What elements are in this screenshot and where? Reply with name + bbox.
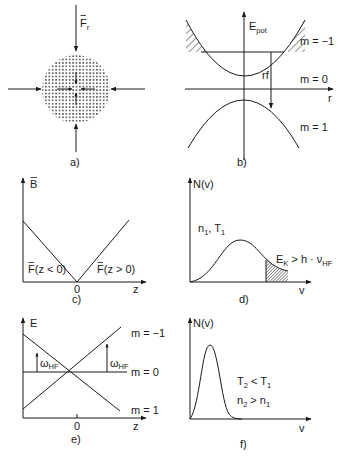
caption-d: d) [239,293,249,305]
force-right-label: F(z > 0) [97,263,135,275]
params-label: n1, T1 [198,222,225,237]
cold-distribution-curve [190,345,242,419]
level-m-minus-1: m = −1 [300,35,334,47]
panel-e: E ωHF ωHF m = −1 m = 0 m = 1 0 z e) [23,317,165,445]
y-axis-label: N(v) [193,178,214,190]
level-m-0: m = 0 [300,73,328,85]
origin-tick-label: 0 [74,420,80,432]
caption-b: b) [237,156,247,168]
x-axis-label: r [328,92,332,104]
panel-f: N(v) v T2 < T1 n2 > n1 f) [190,317,311,450]
transition-label-left: ωHF [40,357,59,371]
figure-canvas: Fr a) Epot r rf m = −1 m = 0 m = 1 b) B … [0,0,342,460]
force-left-label: F(z < 0) [28,263,66,275]
level-line-m-minus-1 [23,327,121,409]
x-axis-label: z [133,283,139,295]
level-m-1: m = 1 [131,404,159,416]
caption-e: e) [71,433,81,445]
panel-b: Epot r rf m = −1 m = 0 m = 1 b) [185,12,334,168]
level-m-0: m = 0 [131,366,159,378]
level-m-1: m = 1 [300,121,328,133]
rf-label: rf [262,69,270,81]
atom-cloud [42,55,110,123]
y-axis-label: B [30,178,37,190]
x-axis-label: v [299,422,305,434]
panel-a: Fr a) [8,5,145,168]
force-label: Fr [80,17,90,32]
y-axis-label: N(v) [193,317,214,329]
caption-a: a) [70,156,80,168]
panel-d: N(v) v n1, T1 EK > h · νHF d) [190,178,333,305]
condition-density: n2 > n1 [237,394,270,409]
potential-curve-m-minus-1 [186,20,305,76]
y-axis-label: Epot [249,20,268,35]
condition-temperature: T2 < T1 [237,375,271,390]
level-m-minus-1: m = −1 [131,327,165,339]
hatched-tail-region [190,240,288,282]
panel-c: B 0 z F(z < 0) F(z > 0) c) [23,178,146,306]
x-axis-label: v [299,284,305,296]
caption-c: c) [72,293,81,305]
x-axis-label: z [133,420,139,432]
cutoff-label: EK > h · νHF [276,253,333,268]
caption-f: f) [240,438,247,450]
y-axis-label: E [30,317,37,329]
transition-label-right: ωHF [110,357,129,371]
